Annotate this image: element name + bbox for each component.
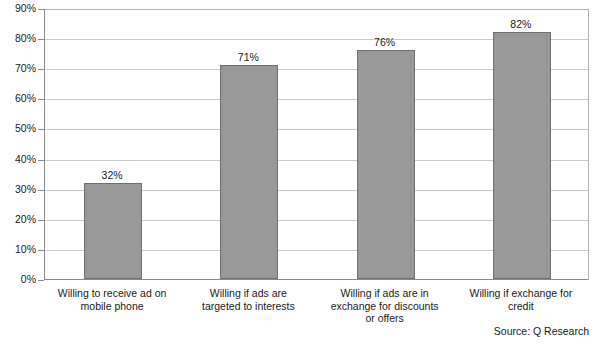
x-axis-category-label-line: Willing to receive ad on	[44, 287, 180, 300]
x-axis-category-label-line: Willing if ads are	[180, 287, 316, 300]
y-axis-tick-label: 0%	[21, 274, 36, 285]
y-axis-tick	[38, 69, 44, 70]
gridline	[45, 9, 588, 10]
x-axis-category-label: Willing if exchange forcredit	[453, 287, 589, 312]
y-axis-tick-label: 30%	[15, 184, 36, 195]
y-axis-tick-label: 60%	[15, 93, 36, 104]
bar-chart: 0%10%20%30%40%50%60%70%80%90% Willing to…	[0, 0, 603, 348]
x-axis-category-label: Willing if ads are inexchange for discou…	[317, 287, 453, 325]
x-axis-category-label-line: exchange for discounts	[317, 300, 453, 313]
y-axis-tick	[38, 160, 44, 161]
y-axis-tick	[38, 39, 44, 40]
y-axis-tick-label: 50%	[15, 123, 36, 134]
plot-area	[44, 9, 589, 280]
x-axis-category-label: Willing to receive ad onmobile phone	[44, 287, 180, 312]
bar	[220, 65, 278, 279]
bar-value-label: 82%	[472, 18, 570, 30]
x-axis-category-label-line: mobile phone	[44, 300, 180, 313]
source-note: Source: Q Research	[494, 325, 589, 337]
y-axis-tick	[38, 190, 44, 191]
y-axis-tick-label: 80%	[15, 33, 36, 44]
bar	[357, 50, 415, 279]
x-axis-category-label-line: Willing if exchange for	[453, 287, 589, 300]
x-axis-category-label-line: Willing if ads are in	[317, 287, 453, 300]
x-axis-category-label-line: credit	[453, 300, 589, 313]
y-axis-tick	[38, 129, 44, 130]
y-axis-tick-label: 70%	[15, 63, 36, 74]
y-axis-tick-label: 90%	[15, 3, 36, 14]
y-axis-tick	[38, 99, 44, 100]
x-axis-category-label-line: targeted to interests	[180, 300, 316, 313]
y-axis-tick-label: 10%	[15, 244, 36, 255]
bar-value-label: 76%	[336, 36, 434, 48]
y-axis-tick-label: 40%	[15, 154, 36, 165]
y-axis-tick-label: 20%	[15, 214, 36, 225]
x-axis-category-label-line: or offers	[317, 312, 453, 325]
y-axis-tick	[38, 9, 44, 10]
y-axis-tick	[38, 220, 44, 221]
bar-value-label: 71%	[199, 51, 297, 63]
x-axis-category-label: Willing if ads aretargeted to interests	[180, 287, 316, 312]
bar	[84, 183, 142, 279]
bar	[493, 32, 551, 279]
bar-value-label: 32%	[63, 169, 161, 181]
y-axis-tick	[38, 250, 44, 251]
y-axis-tick	[38, 280, 44, 281]
